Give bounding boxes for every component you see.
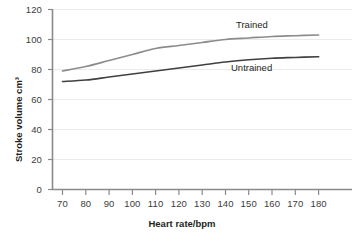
y-tick-label-80: 80	[12, 64, 42, 75]
y-axis-title: Stroke volume cm³	[13, 77, 24, 162]
x-tick-label-150: 150	[237, 198, 261, 209]
y-tick-label-0: 0	[12, 184, 42, 195]
x-tick-marks	[63, 190, 319, 195]
x-tick-label-110: 110	[144, 198, 168, 209]
series-label-untrained: Untrained	[231, 62, 272, 73]
x-tick-label-80: 80	[74, 198, 98, 209]
series-line-trained	[63, 35, 319, 71]
x-tick-label-120: 120	[167, 198, 191, 209]
x-tick-label-140: 140	[214, 198, 238, 209]
x-tick-label-130: 130	[190, 198, 214, 209]
x-tick-label-100: 100	[120, 198, 144, 209]
x-tick-label-70: 70	[51, 198, 75, 209]
series-label-trained: Trained	[236, 19, 268, 30]
x-tick-label-90: 90	[97, 198, 121, 209]
x-tick-label-160: 160	[260, 198, 284, 209]
x-tick-label-170: 170	[283, 198, 307, 209]
stroke-volume-chart: 120 100 80 60 40 20 0 70 80 90 100 110 1…	[0, 0, 364, 241]
y-tick-label-120: 120	[12, 4, 42, 15]
y-tick-label-100: 100	[12, 34, 42, 45]
x-tick-label-180: 180	[307, 198, 331, 209]
gridlines	[52, 10, 352, 160]
y-tick-marks	[48, 10, 52, 190]
x-axis-title: Heart rate/bpm	[0, 218, 364, 229]
